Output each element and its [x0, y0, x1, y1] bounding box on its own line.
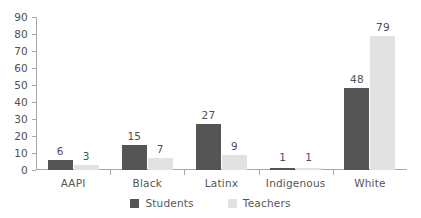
y-axis-tick: 0: [0, 164, 36, 176]
y-axis-tick: 10: [0, 147, 36, 159]
x-axis-category-label: Latinx: [184, 177, 258, 190]
y-axis-tick: 30: [0, 113, 36, 125]
bar-value-label: 1: [290, 151, 327, 163]
y-axis-tick-label: 60: [14, 62, 28, 74]
x-axis-category-label: White: [333, 177, 407, 190]
bar-value-label: 27: [190, 109, 227, 121]
bar-white-students: [344, 88, 369, 170]
y-axis-tick-label: 20: [14, 130, 28, 142]
legend-item-teachers[interactable]: Teachers: [228, 197, 291, 209]
legend-item-students[interactable]: Students: [130, 197, 193, 209]
y-axis-tick-label: 30: [14, 113, 28, 125]
x-axis-tick-mark: [184, 170, 185, 175]
y-axis-tick: 40: [0, 96, 36, 108]
y-axis-tick-label: 10: [14, 147, 28, 159]
legend-swatch-icon: [228, 199, 237, 208]
bar-indigenous-students: [270, 168, 295, 170]
bar-black-teachers: [148, 158, 173, 170]
legend-label: Teachers: [243, 197, 291, 209]
legend-label: Students: [145, 197, 193, 209]
y-axis-tick: 20: [0, 130, 36, 142]
y-axis-tick-label: 50: [14, 79, 28, 91]
bar-value-label: 3: [68, 150, 105, 162]
chart-legend: StudentsTeachers: [0, 197, 421, 209]
x-axis-category-label: Black: [110, 177, 184, 190]
legend-swatch-icon: [130, 199, 139, 208]
y-axis-tick-label: 0: [21, 164, 28, 176]
y-axis-tick: 90: [0, 11, 36, 23]
bar-indigenous-teachers: [296, 168, 321, 170]
bar-aapi-teachers: [74, 165, 99, 170]
bar-value-label: 79: [364, 21, 401, 33]
bar-chart: 0102030405060708090 AAPIBlackLatinxIndig…: [0, 0, 421, 218]
x-axis-tick-mark: [110, 170, 111, 175]
x-axis-tick-mark: [333, 170, 334, 175]
bar-value-label: 7: [142, 143, 179, 155]
y-axis-tick-label: 40: [14, 96, 28, 108]
y-axis-tick: 60: [0, 62, 36, 74]
bar-latinx-teachers: [222, 155, 247, 170]
x-axis-category-label: Indigenous: [259, 177, 333, 190]
x-axis-category-label: AAPI: [36, 177, 110, 190]
x-axis-tick-mark: [259, 170, 260, 175]
y-axis-tick-label: 70: [14, 45, 28, 57]
bar-white-teachers: [370, 36, 395, 170]
plot-area: 63157279114879: [36, 17, 407, 170]
y-axis-tick: 70: [0, 45, 36, 57]
y-axis-tick-label: 90: [14, 11, 28, 23]
bar-value-label: 15: [116, 130, 153, 142]
y-axis-tick-label: 80: [14, 28, 28, 40]
y-axis-tick: 80: [0, 28, 36, 40]
bar-value-label: 9: [216, 140, 253, 152]
y-axis-tick: 50: [0, 79, 36, 91]
